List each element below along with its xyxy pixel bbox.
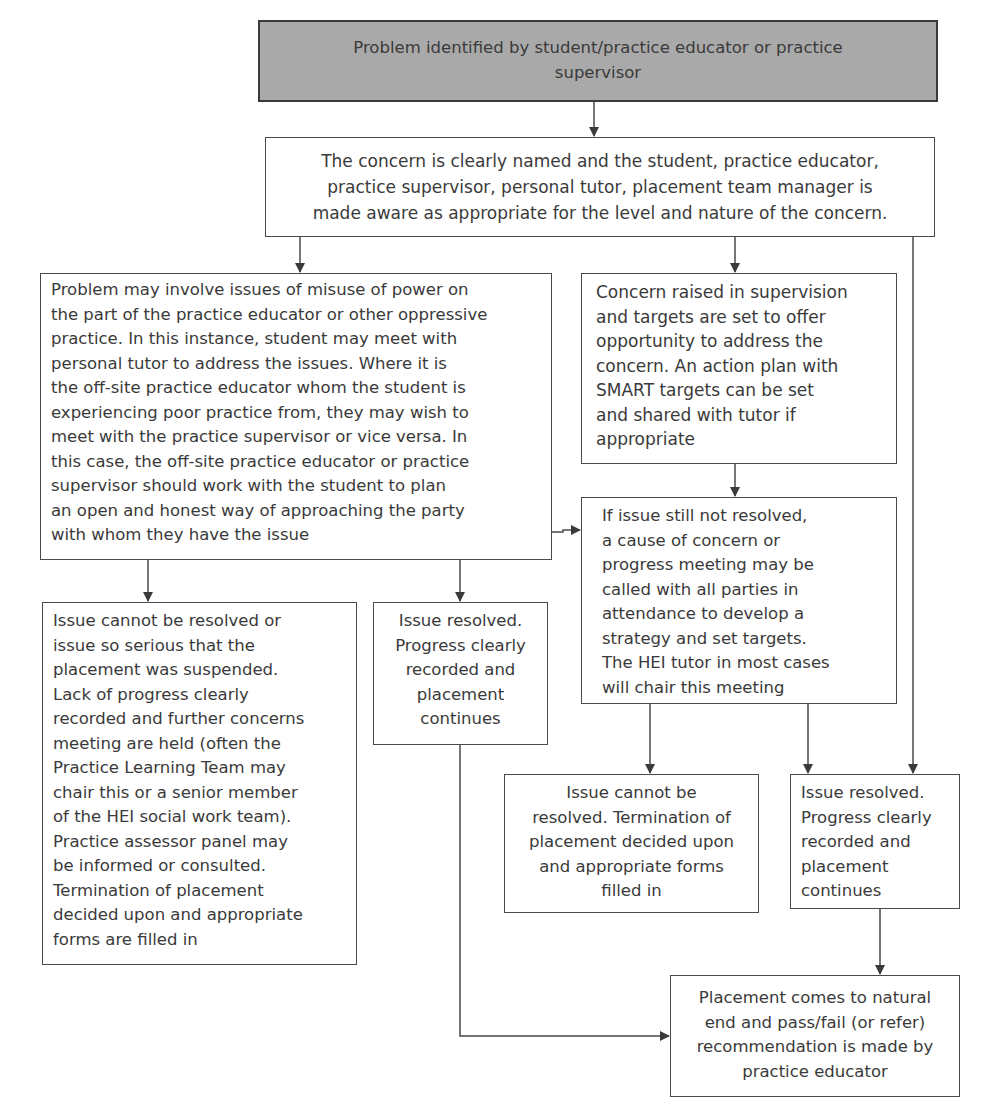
node-misuse-of-power: Problem may involve issues of misuse of … — [40, 273, 552, 560]
node-line: decided upon and appropriate — [53, 903, 346, 928]
node-line: will chair this meeting — [602, 676, 876, 701]
node-line: appropriate — [596, 427, 882, 452]
node-line: Placement comes to natural — [675, 986, 955, 1011]
node-line: Issue resolved. — [801, 781, 949, 806]
node-line: issue so serious that the — [53, 634, 346, 659]
node-line: Practice Learning Team may — [53, 756, 346, 781]
node-line: personal tutor to address the issues. Wh… — [51, 352, 541, 377]
node-line: Lack of progress clearly — [53, 683, 346, 708]
node-line: this case, the off-site practice educato… — [51, 450, 541, 475]
node-line: Issue resolved. — [378, 609, 543, 634]
node-line: meet with the practice supervisor or vic… — [51, 425, 541, 450]
node-line: Practice assessor panel may — [53, 830, 346, 855]
node-line: filled in — [509, 879, 754, 904]
node-line: be informed or consulted. — [53, 854, 346, 879]
node-resolved-left: Issue resolved. Progress clearly recorde… — [373, 602, 548, 745]
node-line: continues — [801, 879, 949, 904]
node-natural-end: Placement comes to natural end and pass/… — [670, 975, 960, 1097]
node-line: Problem may involve issues of misuse of … — [51, 278, 541, 303]
node-line: practice educator — [675, 1060, 955, 1085]
node-line: concern. An action plan with — [596, 354, 882, 379]
node-line: Progress clearly — [801, 806, 949, 831]
node-line: and appropriate forms — [509, 855, 754, 880]
node-line: an open and honest way of approaching th… — [51, 499, 541, 524]
node-line: with whom they have the issue — [51, 523, 541, 548]
node-start-line: Problem identified by student/practice e… — [272, 36, 924, 61]
node-line: recorded and — [801, 830, 949, 855]
node-line: Termination of placement — [53, 879, 346, 904]
node-line: attendance to develop a — [602, 602, 876, 627]
node-progress-meeting: If issue still not resolved, a cause of … — [581, 497, 897, 704]
node-line: recorded and — [378, 658, 543, 683]
node-line: and shared with tutor if — [596, 403, 882, 428]
node-line: of the HEI social work team). — [53, 805, 346, 830]
node-concern-named: The concern is clearly named and the stu… — [265, 137, 935, 237]
node-line: practice. In this instance, student may … — [51, 327, 541, 352]
node-line: practice supervisor, personal tutor, pla… — [278, 174, 922, 200]
node-start: Problem identified by student/practice e… — [258, 20, 938, 102]
node-line: Concern raised in supervision — [596, 280, 882, 305]
node-line: placement — [801, 855, 949, 880]
node-line: experiencing poor practice from, they ma… — [51, 401, 541, 426]
node-line: recommendation is made by — [675, 1035, 955, 1060]
node-line: progress meeting may be — [602, 553, 876, 578]
node-concern-in-supervision: Concern raised in supervision and target… — [581, 273, 897, 464]
node-line: opportunity to address the — [596, 329, 882, 354]
node-line: the part of the practice educator or oth… — [51, 303, 541, 328]
node-resolved-right: Issue resolved. Progress clearly recorde… — [790, 774, 960, 909]
node-line: placement decided upon — [509, 830, 754, 855]
node-line: strategy and set targets. — [602, 627, 876, 652]
node-line: forms are filled in — [53, 928, 346, 953]
node-line: meeting are held (often the — [53, 732, 346, 757]
node-line: SMART targets can be set — [596, 378, 882, 403]
node-line: Progress clearly — [378, 634, 543, 659]
node-suspended: Issue cannot be resolved or issue so ser… — [42, 602, 357, 965]
node-line: end and pass/fail (or refer) — [675, 1011, 955, 1036]
node-line: The concern is clearly named and the stu… — [278, 148, 922, 174]
node-line: a cause of concern or — [602, 529, 876, 554]
node-line: recorded and further concerns — [53, 707, 346, 732]
node-line: chair this or a senior member — [53, 781, 346, 806]
node-line: placement was suspended. — [53, 658, 346, 683]
node-line: and targets are set to offer — [596, 305, 882, 330]
node-line: called with all parties in — [602, 578, 876, 603]
node-line: made aware as appropriate for the level … — [278, 200, 922, 226]
node-start-line: supervisor — [272, 61, 924, 86]
node-line: continues — [378, 707, 543, 732]
node-line: Issue cannot be — [509, 781, 754, 806]
node-line: resolved. Termination of — [509, 806, 754, 831]
node-termination: Issue cannot be resolved. Termination of… — [504, 774, 759, 913]
node-line: Issue cannot be resolved or — [53, 609, 346, 634]
node-line: placement — [378, 683, 543, 708]
node-line: If issue still not resolved, — [602, 504, 876, 529]
node-line: the off-site practice educator whom the … — [51, 376, 541, 401]
node-line: The HEI tutor in most cases — [602, 651, 876, 676]
node-line: supervisor should work with the student … — [51, 474, 541, 499]
